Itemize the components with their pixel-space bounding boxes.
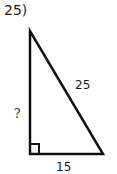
triangle-outline [30, 31, 103, 154]
hypotenuse-label: 25 [75, 78, 90, 92]
right-triangle-diagram [0, 0, 117, 174]
right-angle-marker [30, 144, 39, 154]
vertical-leg-label: ? [14, 107, 20, 121]
horizontal-leg-label: 15 [56, 160, 71, 174]
